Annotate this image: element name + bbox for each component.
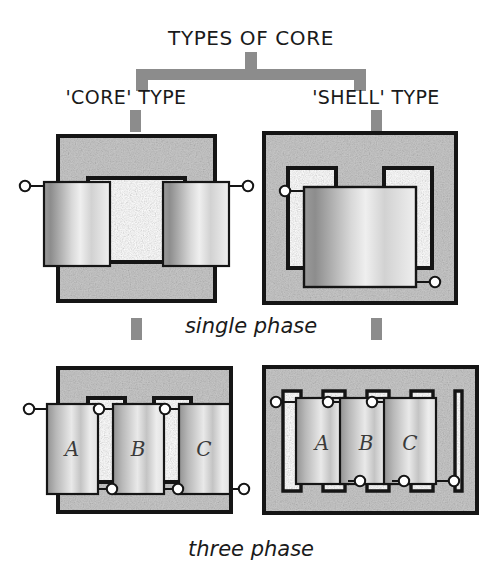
limb-label-b: B [130,437,146,461]
connector-core-top [130,110,141,132]
winding-right [163,182,229,266]
core-type-three-phase: A B C [24,368,249,512]
page-title: TYPES OF CORE [167,26,334,50]
caption-three-phase: three phase [188,537,314,561]
shell3-limb-label-a: A [313,431,329,455]
winding-left [44,182,110,266]
branch-label-shell: 'SHELL' TYPE [312,86,439,108]
limb-label-a: A [63,437,79,461]
caption-single-phase: single phase [185,314,317,338]
branch-label-core: 'CORE' TYPE [66,86,187,108]
shell3-limb-label-c: C [402,431,417,455]
connector-shell-mid [371,318,382,340]
connector-core-mid [131,318,142,340]
shell3-limb-label-b: B [358,431,374,455]
diagram-canvas: TYPES OF CORE 'CORE' TYPE 'SHELL' TYPE [0,0,502,576]
winding-center [304,187,416,287]
connector-shell-top [371,110,382,132]
limb-label-c: C [196,437,211,461]
types-of-core-diagram: TYPES OF CORE 'CORE' TYPE 'SHELL' TYPE [0,0,502,576]
shell-type-three-phase: A B C [264,367,477,513]
